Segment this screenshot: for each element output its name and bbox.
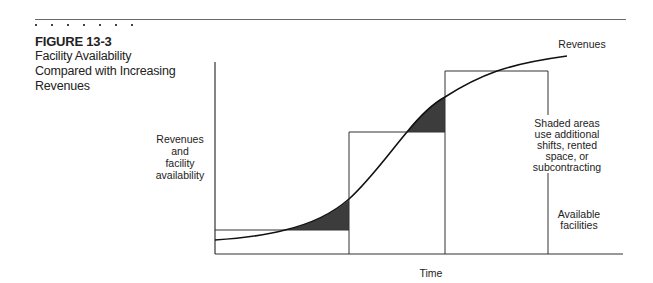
y-axis-label-line-3: facility [165,157,195,169]
y-axis-label-line-2: and [171,145,189,157]
y-axis-label-line-4: availability [156,169,205,181]
y-axis-label-line-1: Revenues [156,133,203,145]
revenue-curve [215,56,567,240]
shaded-area-1 [285,200,349,230]
revenues-curve-label: Revenues [558,38,605,50]
shaded-note-line-5: subcontracting [533,161,601,173]
chart: Revenues Revenues and facility availabil… [0,0,653,283]
available-facilities-line-2: facilities [560,219,597,231]
shaded-area-2 [407,97,445,132]
x-axis-label: Time [420,267,443,279]
